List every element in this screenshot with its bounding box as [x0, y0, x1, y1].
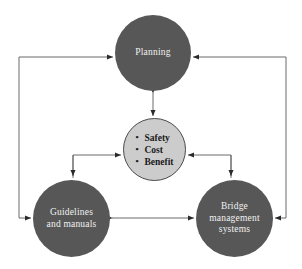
node-guidelines-label: Guidelines and manuals [43, 207, 101, 230]
node-criteria[interactable]: Safety Cost Benefit [123, 118, 186, 181]
node-bridge-management-systems[interactable]: Bridge management systems [196, 180, 273, 257]
criteria-item-cost: Cost [135, 144, 173, 156]
node-planning-label: Planning [131, 47, 174, 59]
node-bms-label: Bridge management systems [205, 201, 264, 236]
criteria-item-safety: Safety [135, 132, 173, 144]
diagram-canvas: Planning Safety Cost Benefit Guidelines … [0, 0, 302, 269]
criteria-list: Safety Cost Benefit [135, 132, 173, 168]
criteria-item-benefit: Benefit [135, 156, 173, 168]
node-guidelines-and-manuals[interactable]: Guidelines and manuals [33, 180, 110, 257]
connector-bms-criteria-elbow [188, 155, 231, 178]
node-planning[interactable]: Planning [115, 15, 191, 91]
connector-guidelines-criteria-elbow [73, 155, 121, 178]
